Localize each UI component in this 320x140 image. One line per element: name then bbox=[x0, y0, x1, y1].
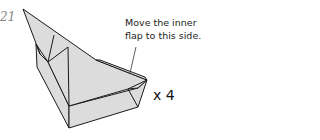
leader-line bbox=[130, 47, 136, 73]
instruction-note: Move the inner flap to this side. bbox=[125, 16, 201, 42]
instruction-line-1: Move the inner bbox=[125, 16, 201, 29]
instruction-line-2: flap to this side. bbox=[125, 29, 201, 42]
repeat-label: x 4 bbox=[153, 87, 175, 103]
